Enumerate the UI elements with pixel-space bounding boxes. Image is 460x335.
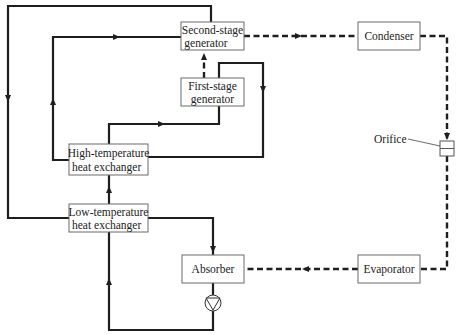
arrow-up-icon [106, 186, 112, 193]
arrow-down-icon [5, 95, 11, 102]
arrow-right-icon [158, 121, 165, 127]
orifice-icon [440, 141, 454, 156]
first-stage-generator-box: First-stage generator [181, 78, 244, 106]
condenser-label: Condenser [364, 30, 413, 42]
hthe-to-fsg-line [109, 106, 219, 144]
absorber-label: Absorber [192, 263, 235, 275]
orifice-leader-line [408, 139, 440, 146]
first-stage-generator-label: First-stage [188, 80, 237, 93]
arrow-down-icon [210, 246, 216, 253]
arrow-right-icon [113, 34, 120, 40]
absorber-box: Absorber [182, 255, 244, 283]
arrow-up-icon [201, 53, 207, 60]
second-stage-generator-label-2: generator [184, 37, 228, 50]
arrow-up-icon [50, 98, 56, 105]
arrow-up-icon [106, 278, 112, 285]
hthe-label-2: heat exchanger [72, 161, 141, 174]
high-temperature-heat-exchanger-box: High-temperature heat exchanger [68, 144, 150, 175]
orifice-to-evaporator-line [420, 156, 447, 269]
first-stage-generator-label-2: generator [191, 93, 235, 106]
arrow-left-icon [302, 266, 309, 272]
right-solution-line [148, 63, 263, 157]
inner-solution-line [53, 37, 181, 160]
lthe-label-2: heat exchanger [72, 219, 141, 232]
second-stage-generator-box: Second-stage generator [181, 22, 244, 50]
orifice-label: Orifice [374, 133, 407, 145]
lthe-to-absorber-line [148, 218, 213, 255]
arrow-down-icon [260, 86, 266, 93]
arrow-down-icon [444, 133, 450, 140]
evaporator-label: Evaporator [363, 263, 414, 276]
hthe-label: High-temperature [68, 147, 150, 160]
condenser-to-orifice-line [420, 36, 447, 141]
pump-icon [205, 295, 221, 311]
low-temperature-heat-exchanger-box: Low-temperature heat exchanger [69, 204, 149, 232]
second-stage-generator-label: Second-stage [182, 24, 243, 37]
lthe-label: Low-temperature [69, 206, 149, 219]
arrow-right-icon [295, 33, 302, 39]
condenser-box: Condenser [358, 22, 420, 50]
evaporator-box: Evaporator [358, 255, 420, 283]
absorption-cycle-diagram: Second-stage generator First-stage gener… [0, 0, 460, 335]
